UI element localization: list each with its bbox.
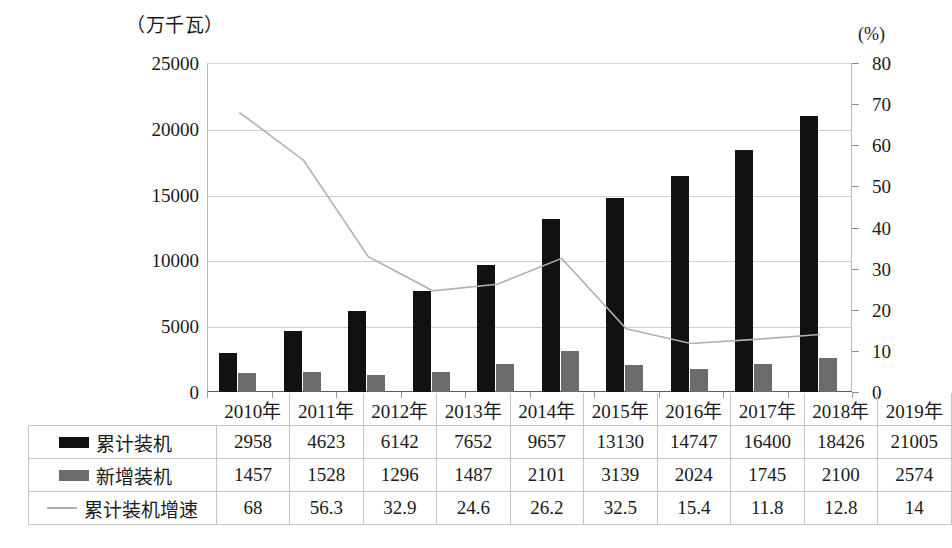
table-cell-value: 26.2 [510, 492, 584, 525]
bar-group [465, 63, 530, 392]
bar-new-capacity [303, 372, 321, 392]
table-header-year: 2019年 [878, 393, 952, 426]
y-axis-tick-label-right: 30 [872, 259, 912, 278]
table-cell-value: 1296 [363, 459, 437, 492]
bar-cumulative-capacity [800, 116, 818, 392]
table-cell-value: 16400 [731, 426, 805, 459]
table-row-label-text: 累计装机 [96, 429, 172, 456]
table-cell-value: 4623 [290, 426, 364, 459]
bar-group [336, 63, 401, 392]
gray-line-swatch [47, 507, 77, 509]
y-axis-tick-right [852, 269, 859, 270]
bar-cumulative-capacity [542, 219, 560, 392]
y-axis-tick-right [852, 310, 859, 311]
table-row: 累计装机295846236142765296571313014747164001… [29, 426, 952, 459]
table-cell-value: 11.8 [731, 492, 805, 525]
gray-square-swatch [59, 470, 89, 481]
table-header-year: 2018年 [804, 393, 878, 426]
bar-cumulative-capacity [348, 311, 366, 392]
bars-layer [207, 63, 852, 392]
y-axis-tick-right [852, 228, 859, 229]
table-cell-value: 15.4 [657, 492, 731, 525]
table-header-year: 2014年 [510, 393, 584, 426]
table-row-label-cell: 累计装机增速 [29, 492, 217, 525]
table-header-year: 2016年 [657, 393, 731, 426]
table-header-year: 2011年 [290, 393, 364, 426]
table-cell-value: 32.5 [584, 492, 658, 525]
table-header-year: 2017年 [731, 393, 805, 426]
y-axis-tick-right [852, 351, 859, 352]
y-axis-tick-label-right: 20 [872, 300, 912, 319]
y-axis-tick-label-left: 15000 [133, 185, 199, 204]
bar-new-capacity [432, 372, 450, 392]
y-axis-tick-right [852, 104, 859, 105]
table-cell-value: 2574 [878, 459, 952, 492]
bar-cumulative-capacity [671, 176, 689, 392]
table-cell-value: 12.8 [804, 492, 878, 525]
bar-cumulative-capacity [413, 291, 431, 392]
table-header-year: 2015年 [584, 393, 658, 426]
bar-cumulative-capacity [477, 265, 495, 392]
table-cell-value: 3139 [584, 459, 658, 492]
table-cell-value: 2101 [510, 459, 584, 492]
y-axis-tick-label-right: 40 [872, 218, 912, 237]
y-axis-tick-label-right: 60 [872, 136, 912, 155]
table-cell-value: 68 [217, 492, 290, 525]
table-header-row: 2010年2011年2012年2013年2014年2015年2016年2017年… [29, 393, 952, 426]
table-cell-value: 9657 [510, 426, 584, 459]
y-axis-tick-right [852, 63, 859, 64]
table-cell-value: 2958 [217, 426, 290, 459]
table-cell-value: 6142 [363, 426, 437, 459]
table-cell-value: 13130 [584, 426, 658, 459]
bar-new-capacity [238, 373, 256, 392]
table-cell-value: 56.3 [290, 492, 364, 525]
bar-new-capacity [367, 375, 385, 392]
bar-group [723, 63, 788, 392]
table-cell-value: 1745 [731, 459, 805, 492]
table-cell-value: 14 [878, 492, 952, 525]
bar-cumulative-capacity [219, 353, 237, 392]
table-cell-value: 1487 [437, 459, 511, 492]
table-row-label-text: 累计装机增速 [84, 495, 198, 522]
y-axis-tick-label-right: 80 [872, 54, 912, 73]
table-cell-value: 2100 [804, 459, 878, 492]
bar-new-capacity [625, 365, 643, 392]
y-axis-tick-label-left: 5000 [133, 317, 199, 336]
table-cell-value: 32.9 [363, 492, 437, 525]
bar-cumulative-capacity [606, 198, 624, 392]
table-row: 新增装机145715281296148721013139202417452100… [29, 459, 952, 492]
table-row-label-cell: 累计装机 [29, 426, 217, 459]
y-axis-tick-label-right: 70 [872, 95, 912, 114]
table-row-label-text: 新增装机 [96, 462, 172, 489]
black-square-swatch [59, 437, 89, 448]
y-axis-tick-right [852, 145, 859, 146]
bar-new-capacity [819, 358, 837, 392]
bar-group [272, 63, 337, 392]
y-axis-tick-label-left: 20000 [133, 119, 199, 138]
y-axis-tick-label-right: 50 [872, 177, 912, 196]
table-corner-cell [29, 393, 217, 426]
table-cell-value: 14747 [657, 426, 731, 459]
table-cell-value: 2024 [657, 459, 731, 492]
bar-group [659, 63, 724, 392]
table-header-year: 2010年 [217, 393, 290, 426]
table-cell-value: 24.6 [437, 492, 511, 525]
y-axis-tick-label-right: 10 [872, 341, 912, 360]
y-axis-tick-label-left: 25000 [133, 54, 199, 73]
table-row-label-cell: 新增装机 [29, 459, 217, 492]
table-cell-value: 1457 [217, 459, 290, 492]
bar-group [207, 63, 272, 392]
bar-new-capacity [496, 364, 514, 392]
table-cell-value: 21005 [878, 426, 952, 459]
bar-cumulative-capacity [284, 331, 302, 392]
table-row: 累计装机增速6856.332.924.626.232.515.411.812.8… [29, 492, 952, 525]
bar-new-capacity [690, 369, 708, 392]
bar-new-capacity [754, 364, 772, 392]
y-axis-tick-label-left: 10000 [133, 251, 199, 270]
bar-group [530, 63, 595, 392]
bar-new-capacity [561, 351, 579, 392]
bar-group [401, 63, 466, 392]
table-cell-value: 1528 [290, 459, 364, 492]
right-axis-unit-label: (%) [858, 24, 885, 45]
